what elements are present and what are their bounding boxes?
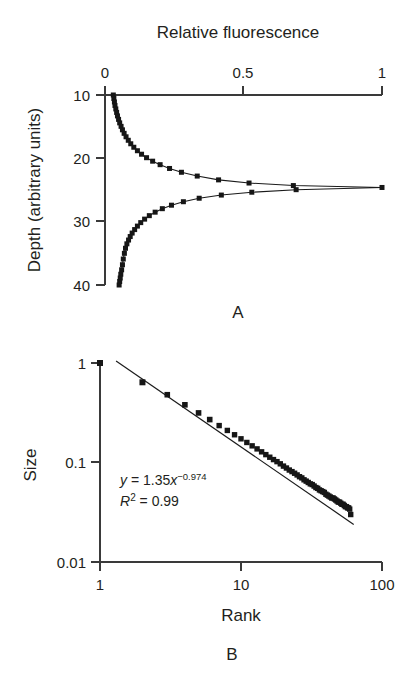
panel-b-xaxis-title: Rank bbox=[221, 606, 261, 625]
panel-a-marker bbox=[181, 199, 186, 204]
panel-b-marker bbox=[225, 428, 230, 433]
panel-a-marker bbox=[167, 166, 172, 171]
panel-a-yaxis-title: Depth (arbitrary units) bbox=[25, 108, 44, 272]
panel-b-ytick-label-2: 1 bbox=[78, 355, 86, 372]
panel-a-marker bbox=[150, 159, 155, 164]
panel-a-marker bbox=[153, 210, 158, 215]
panel-b-rank-size: 1 0.1 0.01 Size 1 10 100 Rank y = 1.35x−… bbox=[0, 330, 407, 683]
panel-b-marker bbox=[196, 410, 202, 416]
panel-b-xtick-label-1: 10 bbox=[233, 576, 250, 593]
panel-a-xtick-label-0: 0 bbox=[101, 64, 109, 81]
panel-b-fit-r2: R2 = 0.99 bbox=[120, 492, 179, 509]
panel-a-marker bbox=[158, 162, 163, 167]
panel-a-plot: Relative fluorescence 0 0.5 1 10 20 30 4… bbox=[0, 0, 407, 340]
panel-a-marker bbox=[247, 181, 252, 186]
panel-a-marker bbox=[219, 193, 224, 198]
panel-b-ytick-label-1: 0.1 bbox=[65, 454, 86, 471]
panel-a-marker bbox=[119, 267, 124, 272]
panel-a-marker bbox=[169, 203, 174, 208]
panel-a-marker bbox=[121, 257, 126, 262]
panel-b-fit-equation: y = 1.35x−0.974 bbox=[119, 471, 207, 488]
panel-a-ytick-label-2: 30 bbox=[73, 213, 90, 230]
scientific-figure: Relative fluorescence 0 0.5 1 10 20 30 4… bbox=[0, 0, 407, 683]
fit-r2-value: = 0.99 bbox=[136, 493, 179, 509]
panel-b-marker bbox=[97, 360, 103, 366]
panel-a-marker bbox=[124, 241, 129, 246]
panel-b-marker bbox=[164, 392, 170, 398]
panel-b-xtick-label-0: 1 bbox=[96, 576, 104, 593]
fit-r2-label: R bbox=[120, 493, 130, 509]
panel-b-ytick-label-0: 0.01 bbox=[57, 554, 86, 571]
panel-a-xtick-label-1: 0.5 bbox=[233, 64, 254, 81]
panel-a-ytick-label-0: 10 bbox=[73, 87, 90, 104]
fit-eq-equals: = 1.35 bbox=[127, 472, 170, 488]
panel-a-ytick-label-3: 40 bbox=[73, 277, 90, 294]
panel-a-xtick-label-2: 1 bbox=[378, 64, 386, 81]
panel-b-marker bbox=[182, 402, 188, 408]
panel-a-ytick-label-1: 20 bbox=[73, 150, 90, 167]
panel-a-marker bbox=[117, 283, 122, 288]
panel-a-marker bbox=[147, 213, 152, 218]
panel-a-marker bbox=[195, 174, 200, 179]
panel-b-xtick-label-2: 100 bbox=[369, 576, 394, 593]
panel-a-letter: A bbox=[232, 303, 244, 322]
panel-b-marker bbox=[238, 436, 243, 441]
panel-b-marker bbox=[347, 506, 352, 511]
panel-b-marker bbox=[249, 443, 254, 448]
panel-b-yaxis-title: Size bbox=[21, 448, 40, 481]
panel-a-data-series bbox=[111, 93, 385, 288]
panel-a-marker bbox=[144, 155, 149, 160]
panel-a-marker bbox=[249, 190, 254, 195]
panel-a-marker bbox=[122, 251, 127, 256]
panel-a-marker bbox=[216, 177, 221, 182]
fit-eq-exponent: −0.974 bbox=[177, 471, 206, 482]
panel-b-marker bbox=[232, 432, 237, 437]
panel-b-letter: B bbox=[226, 645, 237, 664]
panel-a-marker bbox=[160, 206, 165, 211]
panel-a-marker bbox=[380, 185, 385, 190]
panel-a-marker bbox=[294, 187, 299, 192]
panel-a-xaxis-title: Relative fluorescence bbox=[157, 23, 320, 42]
panel-b-marker bbox=[139, 379, 145, 385]
panel-a-marker bbox=[123, 246, 128, 251]
panel-b-marker bbox=[244, 440, 249, 445]
panel-a-marker bbox=[120, 262, 125, 267]
panel-a-fluorescence-depth: Relative fluorescence 0 0.5 1 10 20 30 4… bbox=[0, 0, 407, 340]
panel-b-marker bbox=[216, 423, 221, 428]
panel-a-marker bbox=[139, 152, 144, 157]
panel-a-marker bbox=[179, 170, 184, 175]
panel-b-marker bbox=[348, 512, 353, 517]
panel-b-plot: 1 0.1 0.01 Size 1 10 100 Rank y = 1.35x−… bbox=[0, 330, 407, 683]
panel-b-marker bbox=[207, 417, 213, 423]
panel-a-marker bbox=[197, 196, 202, 201]
panel-a-curve bbox=[113, 95, 382, 285]
